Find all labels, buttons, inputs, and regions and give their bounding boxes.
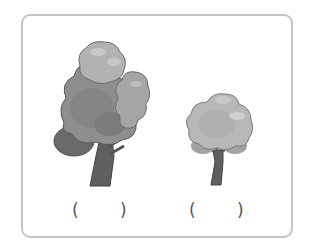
answer-blank-short[interactable]: ( ) <box>185 200 249 220</box>
tall-tree-illustration <box>52 38 152 188</box>
short-tree-illustration <box>183 90 255 186</box>
tree-icon <box>52 38 152 188</box>
close-paren: ) <box>120 200 127 220</box>
tree-icon <box>183 90 255 186</box>
open-paren: ( <box>72 200 79 220</box>
answer-blank-tall[interactable]: ( ) <box>68 200 132 220</box>
open-paren: ( <box>189 200 196 220</box>
close-paren: ) <box>237 200 244 220</box>
